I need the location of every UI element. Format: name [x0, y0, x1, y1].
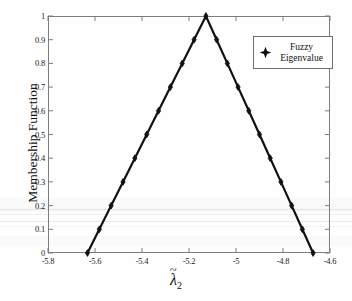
legend-entry-label: Fuzzy Eigenvalue	[273, 42, 332, 63]
chart-legend[interactable]: Fuzzy Eigenvalue	[253, 36, 333, 69]
x-tick-label: -4.8	[277, 256, 290, 266]
diamond-marker-icon	[257, 43, 273, 63]
legend-label-line2: Eigenvalue	[273, 53, 330, 64]
y-tick-label: 0.9	[18, 35, 45, 45]
x-tick-label: -5.2	[183, 256, 196, 266]
y-tick-label: 0	[18, 248, 45, 258]
x-tick-label: -5.4	[136, 256, 149, 266]
figure-canvas: -5.8-5.6-5.4-5.2-5-4.8-4.6 00.10.20.30.4…	[0, 0, 352, 301]
tilde-accent: ~	[170, 263, 177, 278]
y-tick-label: 1	[18, 11, 45, 21]
x-axis-title: ~λ2	[0, 271, 352, 291]
x-tick-label: -5	[233, 256, 240, 266]
legend-label-line1: Fuzzy	[273, 42, 330, 53]
x-tick-label: -5.6	[89, 256, 102, 266]
y-axis-title: Membership Function	[25, 53, 41, 233]
x-tick-label: -4.6	[324, 256, 337, 266]
x-axis-title-subscript: 2	[177, 280, 182, 291]
